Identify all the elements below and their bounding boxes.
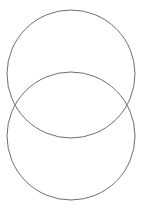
bottom-circle — [7, 72, 135, 200]
venn-diagram — [0, 0, 141, 212]
top-circle — [7, 10, 135, 138]
